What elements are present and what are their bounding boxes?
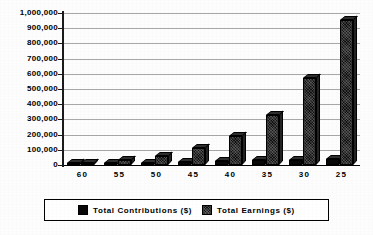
legend-label: Total Earnings ($) xyxy=(217,206,295,215)
bar-front-face xyxy=(229,136,242,165)
bar-group xyxy=(286,13,323,165)
bar-side-face xyxy=(353,15,357,165)
y-axis-tick-mark xyxy=(58,13,63,14)
bar-group xyxy=(175,13,212,165)
bar-contributions xyxy=(67,163,80,165)
bar-earnings xyxy=(81,163,94,165)
plot-area xyxy=(64,13,360,165)
bar-earnings xyxy=(303,78,316,165)
bar-group xyxy=(64,13,101,165)
bar-front-face xyxy=(252,160,265,165)
y-axis-tick-mark xyxy=(58,165,63,166)
bar-earnings xyxy=(155,156,168,165)
bar-group xyxy=(101,13,138,165)
x-axis-tick-label: 45 xyxy=(188,170,199,180)
x-axis-baseline xyxy=(64,165,360,166)
bar-front-face xyxy=(326,159,339,165)
bar-contributions xyxy=(289,160,302,165)
bar-front-face xyxy=(104,163,117,165)
legend-swatch-icon xyxy=(78,205,88,215)
bar-contributions xyxy=(104,163,117,165)
bar-front-face xyxy=(81,163,94,165)
bar-earnings xyxy=(118,160,131,165)
bar-front-face xyxy=(155,156,168,165)
bar-side-face xyxy=(316,74,320,165)
y-axis-tick-labels: 1,000,000900,000800,000700,000600,000500… xyxy=(0,0,62,172)
bar-group xyxy=(249,13,286,165)
y-axis-tick-mark xyxy=(58,135,63,136)
y-axis-tick-label: 500,000 xyxy=(27,85,58,93)
bar-contributions xyxy=(326,159,339,165)
y-axis-tick-mark xyxy=(58,43,63,44)
y-axis-tick-mark xyxy=(58,28,63,29)
x-axis-tick-label: 55 xyxy=(114,170,125,180)
legend-label: Total Contributions ($) xyxy=(93,206,192,215)
x-axis-tick-label: 35 xyxy=(262,170,273,180)
bar-group xyxy=(212,13,249,165)
bar-side-face xyxy=(242,132,246,165)
x-axis-tick-label: 60 xyxy=(77,170,88,180)
y-axis-tick-mark xyxy=(58,59,63,60)
bar-front-face xyxy=(289,160,302,165)
bar-front-face xyxy=(215,161,228,165)
bar-front-face xyxy=(192,148,205,165)
chart-legend: Total Contributions ($)Total Earnings ($… xyxy=(44,199,329,221)
x-axis-tick-labels: 6055504540353025 xyxy=(64,170,360,186)
y-axis-tick-label: 100,000 xyxy=(27,146,58,154)
bar-front-face xyxy=(303,78,316,165)
x-axis-tick-label: 40 xyxy=(225,170,236,180)
y-axis-tick-mark xyxy=(58,150,63,151)
bar-side-face xyxy=(279,110,283,165)
legend-swatch-icon xyxy=(202,205,212,215)
y-axis-tick-label: 400,000 xyxy=(27,100,58,108)
legend-item: Total Earnings ($) xyxy=(202,205,295,215)
x-axis-tick-label: 50 xyxy=(151,170,162,180)
bar-chart: 1,000,000900,000800,000700,000600,000500… xyxy=(0,0,373,235)
bar-earnings xyxy=(340,20,353,165)
y-axis-tick-label: 900,000 xyxy=(27,24,58,32)
y-axis-tick-label: 700,000 xyxy=(27,55,58,63)
bar-front-face xyxy=(141,163,154,165)
bar-group xyxy=(138,13,175,165)
y-axis-tick-mark xyxy=(58,89,63,90)
bar-earnings xyxy=(229,136,242,165)
legend-item: Total Contributions ($) xyxy=(78,205,192,215)
y-axis-tick-label: 600,000 xyxy=(27,70,58,78)
x-axis-tick-label: 30 xyxy=(299,170,310,180)
bar-earnings xyxy=(266,115,279,165)
x-axis-tick-label: 25 xyxy=(336,170,347,180)
bar-front-face xyxy=(266,115,279,165)
y-axis-tick-label: 1,000,000 xyxy=(20,9,58,17)
bar-contributions xyxy=(215,161,228,165)
y-axis-tick-label: 800,000 xyxy=(27,39,58,47)
bar-front-face xyxy=(67,163,80,165)
bar-contributions xyxy=(252,160,265,165)
y-axis-tick-mark xyxy=(58,119,63,120)
bar-contributions xyxy=(178,162,191,165)
bar-contributions xyxy=(141,163,154,165)
bar-earnings xyxy=(192,148,205,165)
y-axis-tick-mark xyxy=(58,74,63,75)
y-axis-tick-label: 300,000 xyxy=(27,115,58,123)
bar-series-container xyxy=(64,13,360,165)
bar-group xyxy=(323,13,360,165)
bar-front-face xyxy=(340,20,353,165)
y-axis-tick-label: 200,000 xyxy=(27,131,58,139)
y-axis-tick-mark xyxy=(58,104,63,105)
bar-front-face xyxy=(178,162,191,165)
bar-front-face xyxy=(118,160,131,165)
